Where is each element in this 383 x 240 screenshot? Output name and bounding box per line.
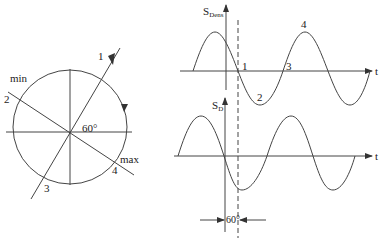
diagram-canvas: [0, 0, 383, 240]
min-max-line: [8, 92, 134, 175]
bottom-y-axis-label: SD: [212, 100, 223, 113]
angle-label: 60°: [82, 123, 97, 134]
phase-shift-label: 60°: [226, 215, 240, 225]
top-point-3-label: 3: [286, 61, 292, 72]
top-x-axis-label: t: [375, 66, 378, 77]
min-label: min: [10, 73, 27, 84]
point-1-label: 1: [98, 51, 104, 62]
top-graph: [180, 5, 372, 105]
top-point-1-label: 1: [242, 61, 248, 72]
point-4-label: 4: [112, 165, 118, 176]
max-label: max: [120, 154, 139, 165]
top-sine-curve: [193, 32, 370, 105]
top-point-2-label: 2: [257, 92, 263, 103]
point-3-label: 3: [44, 183, 50, 194]
phasor-circle-diagram: [6, 48, 134, 199]
bottom-sine-curve: [178, 116, 355, 190]
top-point-4-label: 4: [301, 19, 307, 30]
bottom-graph: [174, 98, 372, 232]
point-2-label: 2: [4, 94, 10, 105]
top-y-axis-label: SDens: [203, 6, 224, 19]
rotation-arrow-icon: [121, 104, 128, 112]
bottom-x-axis-label: t: [375, 151, 378, 162]
